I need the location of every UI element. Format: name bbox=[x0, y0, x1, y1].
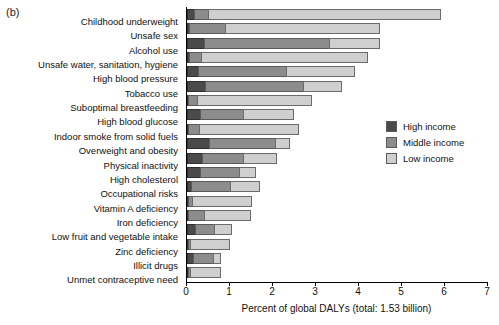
bar-segment-low-income bbox=[213, 253, 222, 264]
bar-row bbox=[187, 81, 488, 92]
bar-segment-middle-income bbox=[189, 52, 201, 63]
bar-row bbox=[187, 253, 488, 264]
legend-item-middle: Middle income bbox=[386, 135, 464, 149]
x-tick-label: 2 bbox=[269, 286, 275, 297]
bar-row bbox=[187, 52, 488, 63]
bar-segment-middle-income bbox=[205, 81, 303, 92]
legend-swatch-icon bbox=[386, 137, 397, 148]
bar-segment-high-income bbox=[187, 109, 200, 120]
bar-row bbox=[187, 167, 488, 178]
bar-segment-low-income bbox=[239, 167, 256, 178]
legend-swatch-icon bbox=[386, 153, 397, 164]
bar-segment-middle-income bbox=[200, 109, 243, 120]
bar-segment-middle-income bbox=[191, 181, 230, 192]
bar-segment-middle-income bbox=[204, 38, 329, 49]
bar-row bbox=[187, 196, 488, 207]
category-label: Tobacco use bbox=[125, 88, 178, 99]
bar-segment-middle-income bbox=[188, 95, 197, 106]
bar-segment-middle-income bbox=[195, 224, 214, 235]
category-label: Indoor smoke from solid fuels bbox=[54, 131, 178, 142]
bar-segment-middle-income bbox=[198, 66, 286, 77]
legend-item-low: Low income bbox=[386, 151, 464, 165]
bar-segment-middle-income bbox=[188, 124, 199, 135]
bar-segment-high-income bbox=[187, 9, 194, 20]
category-label: Illicit drugs bbox=[133, 260, 178, 271]
bar-segment-low-income bbox=[275, 138, 290, 149]
bar-segment-high-income bbox=[187, 66, 198, 77]
x-tick-label: 4 bbox=[355, 286, 361, 297]
category-label: High blood glucose bbox=[97, 116, 178, 127]
category-label: Unmet contraceptive need bbox=[67, 274, 178, 285]
bar-segment-middle-income bbox=[188, 210, 204, 221]
bar-segment-high-income bbox=[187, 81, 205, 92]
category-label: Suboptimal breastfeeding bbox=[70, 102, 178, 113]
category-label: Iron deficiency bbox=[117, 217, 178, 228]
category-label: Childhood underweight bbox=[81, 16, 178, 27]
category-label: Overweight and obesity bbox=[79, 145, 178, 156]
bar-segment-low-income bbox=[208, 9, 440, 20]
bar-row bbox=[187, 267, 488, 278]
bar-segment-low-income bbox=[190, 239, 230, 250]
category-label: Unsafe water, sanitation, hygiene bbox=[38, 59, 178, 70]
bar-segment-low-income bbox=[225, 23, 381, 34]
bar-segment-high-income bbox=[187, 38, 204, 49]
bar-segment-low-income bbox=[243, 109, 295, 120]
bar-row bbox=[187, 9, 488, 20]
legend-item-high: High income bbox=[386, 119, 464, 133]
bar-segment-middle-income bbox=[189, 23, 225, 34]
x-tick-label: 6 bbox=[441, 286, 447, 297]
category-label: High blood pressure bbox=[93, 73, 178, 84]
bar-row bbox=[187, 224, 488, 235]
bar-segment-middle-income bbox=[209, 138, 276, 149]
bar-segment-high-income bbox=[187, 138, 209, 149]
x-tick-label: 5 bbox=[398, 286, 404, 297]
x-tick-label: 1 bbox=[226, 286, 232, 297]
legend-label: Middle income bbox=[403, 137, 464, 148]
bar-segment-low-income bbox=[204, 210, 251, 221]
bar-segment-high-income bbox=[187, 224, 195, 235]
bar-segment-low-income bbox=[192, 196, 251, 207]
bar-segment-low-income bbox=[214, 224, 232, 235]
legend: High incomeMiddle incomeLow income bbox=[386, 119, 464, 167]
bar-segment-middle-income bbox=[193, 253, 212, 264]
bar-row bbox=[187, 239, 488, 250]
bar-row bbox=[187, 181, 488, 192]
bar-segment-low-income bbox=[201, 52, 367, 63]
category-label: Occupational risks bbox=[100, 188, 178, 199]
bar-segment-low-income bbox=[197, 95, 312, 106]
bar-row bbox=[187, 23, 488, 34]
x-axis-ticks: 01234567 bbox=[186, 282, 487, 302]
bar-segment-middle-income bbox=[202, 153, 243, 164]
bar-segment-middle-income bbox=[194, 9, 208, 20]
category-label: Zinc deficiency bbox=[115, 246, 178, 257]
legend-label: High income bbox=[403, 121, 456, 132]
category-label: Unsafe sex bbox=[130, 30, 178, 41]
figure-panel-b: (b) Childhood underweightUnsafe sexAlcoh… bbox=[0, 0, 499, 325]
bar-segment-high-income bbox=[187, 153, 202, 164]
x-axis-label: Percent of global DALYs (total: 1.53 bil… bbox=[186, 303, 487, 314]
x-tick-label: 0 bbox=[183, 286, 189, 297]
category-label: Low fruit and vegetable intake bbox=[52, 231, 178, 242]
category-label: Alcohol use bbox=[129, 45, 178, 56]
legend-label: Low income bbox=[403, 153, 454, 164]
legend-swatch-icon bbox=[386, 121, 397, 132]
bar-segment-low-income bbox=[243, 153, 277, 164]
bar-segment-low-income bbox=[199, 124, 299, 135]
bar-segment-low-income bbox=[303, 81, 342, 92]
category-label: Vitamin A deficiency bbox=[94, 203, 178, 214]
bar-row bbox=[187, 95, 488, 106]
category-label: Physical inactivity bbox=[104, 160, 178, 171]
bar-segment-low-income bbox=[329, 38, 381, 49]
category-axis-labels: Childhood underweightUnsafe sexAlcohol u… bbox=[0, 7, 182, 282]
bar-segment-middle-income bbox=[200, 167, 239, 178]
bar-segment-low-income bbox=[190, 267, 221, 278]
x-tick-label: 7 bbox=[484, 286, 490, 297]
bar-segment-low-income bbox=[286, 66, 355, 77]
bar-row bbox=[187, 210, 488, 221]
category-label: High cholesterol bbox=[110, 174, 178, 185]
bar-row bbox=[187, 38, 488, 49]
bar-segment-high-income bbox=[187, 167, 200, 178]
bar-row bbox=[187, 66, 488, 77]
x-tick-label: 3 bbox=[312, 286, 318, 297]
bar-segment-low-income bbox=[230, 181, 260, 192]
